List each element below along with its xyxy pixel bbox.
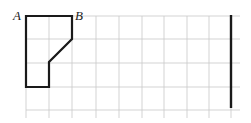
grid-diagram: A B bbox=[0, 0, 251, 123]
grid-lines bbox=[26, 16, 240, 118]
label-a: A bbox=[12, 8, 21, 23]
label-b: B bbox=[75, 8, 83, 23]
